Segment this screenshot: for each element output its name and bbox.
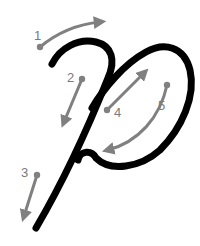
arrow-2 <box>64 79 82 122</box>
arrow-4-start-dot <box>104 107 110 113</box>
step-label-5: 5 <box>158 98 165 113</box>
arrow-1-start-dot <box>37 44 43 50</box>
letter-bowl-stroke <box>78 47 191 167</box>
step-label-4: 4 <box>114 105 121 120</box>
stroke-order-diagram: 1 2 3 4 5 <box>0 0 200 246</box>
arrow-3-start-dot <box>34 172 40 178</box>
arrow-3 <box>24 175 37 216</box>
step-label-3: 3 <box>21 165 28 180</box>
arrow-2-start-dot <box>79 76 85 82</box>
step-label-1: 1 <box>34 28 41 43</box>
letter-p-glyph <box>36 41 191 228</box>
step-label-2: 2 <box>67 70 74 85</box>
arrow-5-start-dot <box>164 82 170 88</box>
